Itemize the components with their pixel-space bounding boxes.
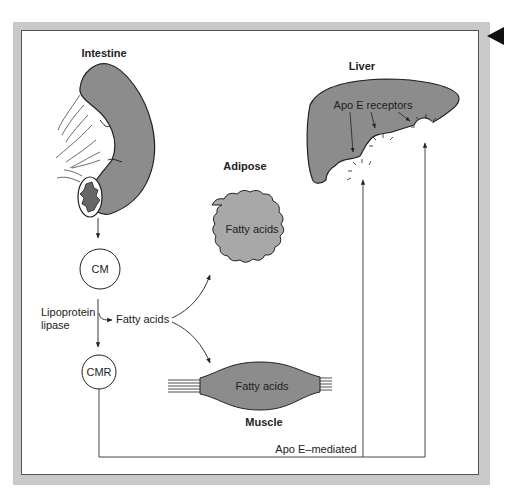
apo-e-mediated-label: Apo E–mediated bbox=[275, 443, 356, 455]
intestine-label: Intestine bbox=[81, 47, 126, 59]
liver-label: Liver bbox=[349, 60, 376, 72]
receptor-pit-1 bbox=[351, 164, 373, 186]
muscle-label: Muscle bbox=[245, 416, 282, 428]
liver-illustration bbox=[307, 79, 459, 183]
lipoprotein-lipase-label-2: lipase bbox=[41, 319, 70, 331]
arrow-to-muscle bbox=[172, 322, 210, 363]
apo-e-receptors-label: Apo E receptors bbox=[334, 99, 413, 111]
lipoprotein-lipase-label-1: Lipoprotein bbox=[41, 306, 95, 318]
adipose-fatty-acids-label: Fatty acids bbox=[225, 223, 279, 235]
cm-label: CM bbox=[91, 263, 108, 275]
receptor-pit-2 bbox=[373, 138, 393, 158]
cmr-label: CMR bbox=[86, 366, 111, 378]
lipoprotein-metabolism-diagram: Intestine CM Lipoprotein lipase Fatty ac… bbox=[0, 0, 505, 490]
arrow-to-adipose bbox=[172, 275, 210, 318]
receptor-pit-3 bbox=[415, 119, 435, 139]
fatty-acids-label: Fatty acids bbox=[116, 313, 170, 325]
muscle-fatty-acids-label: Fatty acids bbox=[235, 380, 289, 392]
adipose-label: Adipose bbox=[223, 160, 266, 172]
intestine-illustration bbox=[56, 64, 155, 217]
arrow-to-fatty-acids bbox=[99, 313, 112, 320]
